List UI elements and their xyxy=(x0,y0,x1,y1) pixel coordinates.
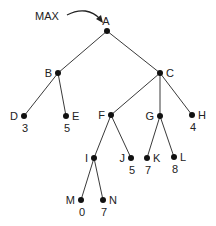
node-label: H xyxy=(198,109,206,121)
node-label: G xyxy=(145,110,154,122)
edge-c-f xyxy=(111,73,160,115)
node-dot-icon xyxy=(21,113,27,119)
node-dot-icon xyxy=(91,155,97,161)
node-m: M0 xyxy=(66,194,85,218)
node-j: J5 xyxy=(120,152,136,176)
max-label: MAX xyxy=(35,10,60,22)
node-value: 8 xyxy=(172,163,178,175)
game-tree-diagram: MAX ABCD3E5FGH4IJ5K7L8M0N7 xyxy=(0,0,216,226)
node-value: 5 xyxy=(64,122,70,134)
node-dot-icon xyxy=(157,70,163,76)
node-dot-icon xyxy=(189,112,195,118)
node-label: B xyxy=(45,67,52,79)
node-k: K7 xyxy=(144,152,161,176)
node-dot-icon xyxy=(108,112,114,118)
node-label: N xyxy=(109,194,117,206)
node-label: L xyxy=(180,151,186,163)
node-value: 0 xyxy=(79,206,85,218)
edge-a-c xyxy=(107,31,160,73)
node-value: 3 xyxy=(22,122,28,134)
edge-c-h xyxy=(160,73,192,115)
node-label: M xyxy=(66,194,75,206)
edge-i-n xyxy=(94,158,103,200)
node-h: H4 xyxy=(189,109,206,133)
node-dot-icon xyxy=(55,70,61,76)
node-e: E5 xyxy=(63,110,79,134)
node-value: 4 xyxy=(190,121,196,133)
node-value: 5 xyxy=(129,164,135,176)
node-label: E xyxy=(72,110,79,122)
edge-f-i xyxy=(94,115,111,158)
node-d: D3 xyxy=(10,110,28,134)
edge-i-m xyxy=(81,158,94,200)
node-dot-icon xyxy=(128,155,134,161)
node-a: A xyxy=(102,15,110,34)
node-label: I xyxy=(85,152,88,164)
edge-g-l xyxy=(160,116,174,157)
node-label: J xyxy=(120,152,126,164)
node-dot-icon xyxy=(104,28,110,34)
nodes-layer: ABCD3E5FGH4IJ5K7L8M0N7 xyxy=(10,15,206,218)
node-l: L8 xyxy=(171,151,186,175)
node-dot-icon xyxy=(78,197,84,203)
edge-b-e xyxy=(58,73,66,116)
node-label: K xyxy=(153,152,161,164)
node-label: D xyxy=(10,110,18,122)
node-label: A xyxy=(102,15,110,27)
node-dot-icon xyxy=(171,154,177,160)
node-f: F xyxy=(98,109,114,121)
edge-a-b xyxy=(58,31,107,73)
node-dot-icon xyxy=(144,155,150,161)
edges-layer xyxy=(24,31,192,200)
node-value: 7 xyxy=(145,164,151,176)
edge-b-d xyxy=(24,73,58,116)
curved-arrow-icon xyxy=(67,11,100,19)
node-label: F xyxy=(98,109,105,121)
node-label: C xyxy=(166,67,174,79)
max-annotation: MAX xyxy=(35,10,103,23)
node-dot-icon xyxy=(157,113,163,119)
node-dot-icon xyxy=(100,197,106,203)
node-value: 7 xyxy=(101,206,107,218)
node-dot-icon xyxy=(63,113,69,119)
node-n: N7 xyxy=(100,194,117,218)
